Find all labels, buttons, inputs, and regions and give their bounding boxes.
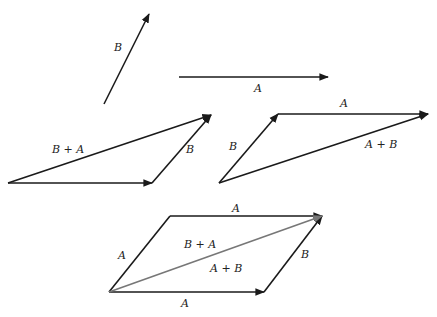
label-bottom: A: [180, 297, 189, 310]
label-b-right: B: [228, 140, 237, 153]
label-a-right: A: [339, 97, 348, 110]
label-b-left: B: [185, 143, 194, 156]
label-a: A: [253, 82, 262, 95]
vector-b-standalone: B: [104, 14, 149, 104]
label-diag-lower: A + B: [209, 262, 242, 275]
label-b: B: [113, 41, 122, 54]
vector-diagram: B A B + A B A B A + B A A B A B + A A + …: [0, 0, 437, 317]
label-right: B: [300, 248, 309, 261]
label-diag-upper: B + A: [183, 238, 216, 251]
label-top: A: [231, 202, 240, 215]
label-sum-right: A + B: [364, 138, 397, 151]
vector-a-standalone: A: [179, 77, 328, 95]
triangle-left: B + A B: [8, 115, 211, 183]
triangle-right: A B A + B: [219, 97, 428, 183]
parallelogram: A A B A B + A A + B: [109, 202, 322, 310]
label-left: A: [117, 249, 126, 262]
label-sum-left: B + A: [51, 143, 84, 156]
